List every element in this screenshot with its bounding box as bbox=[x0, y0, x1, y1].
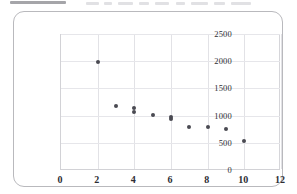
text-smudge bbox=[155, 2, 169, 5]
page-top-text-artifact bbox=[0, 0, 297, 11]
gridline-vertical bbox=[281, 34, 282, 169]
text-smudge bbox=[214, 2, 225, 5]
x-tick-label: 10 bbox=[231, 174, 255, 185]
data-point bbox=[187, 125, 191, 129]
data-point bbox=[132, 110, 136, 114]
chart-figure-frame: 05001000150020002500 024681012 bbox=[13, 11, 283, 187]
data-point bbox=[242, 139, 246, 143]
x-tick-label: 12 bbox=[268, 174, 292, 185]
x-tick-label: 2 bbox=[85, 174, 109, 185]
text-smudge bbox=[104, 2, 112, 5]
text-smudge bbox=[10, 1, 66, 4]
x-tick-label: 8 bbox=[195, 174, 219, 185]
x-tick-label: 0 bbox=[48, 174, 72, 185]
x-tick-label: 4 bbox=[121, 174, 145, 185]
data-point bbox=[224, 127, 228, 131]
y-tick-label: 500 bbox=[219, 138, 232, 147]
data-point bbox=[151, 113, 155, 117]
text-smudge bbox=[176, 2, 185, 5]
text-smudge bbox=[139, 2, 149, 5]
y-tick-label: 2500 bbox=[214, 30, 232, 39]
data-point bbox=[206, 125, 210, 129]
text-smudge bbox=[191, 2, 208, 5]
data-point bbox=[114, 104, 118, 108]
data-point bbox=[169, 117, 173, 121]
text-smudge bbox=[118, 2, 133, 5]
text-smudge bbox=[231, 2, 251, 5]
y-tick-label: 1500 bbox=[214, 84, 232, 93]
scatter-series bbox=[61, 34, 280, 169]
text-smudge bbox=[86, 2, 99, 5]
y-tick-label: 2000 bbox=[214, 57, 232, 66]
data-point bbox=[96, 60, 100, 64]
y-tick-label: 1000 bbox=[214, 111, 232, 120]
plot-area bbox=[60, 34, 280, 170]
x-tick-label: 6 bbox=[158, 174, 182, 185]
